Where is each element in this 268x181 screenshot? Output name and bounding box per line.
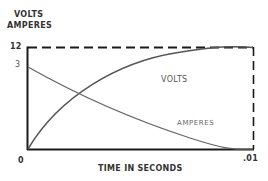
x-tick-0: 0 (18, 157, 24, 165)
rc-charging-chart: VOLTS AMPERES 12 3 0 .01 TIME IN SECONDS… (0, 0, 268, 181)
x-tick-end: .01 (243, 155, 258, 163)
y-axis-label-amperes: AMPERES (7, 22, 52, 30)
volts-curve (28, 47, 253, 149)
amperes-curve-label: AMPERES (177, 120, 214, 127)
x-axis-label: TIME IN SECONDS (98, 165, 183, 173)
y-tick-3: 3 (15, 61, 20, 69)
y-tick-12: 12 (10, 43, 22, 51)
volts-curve-label: VOLTS (161, 76, 187, 84)
y-axis-label-volts: VOLTS (14, 11, 43, 19)
